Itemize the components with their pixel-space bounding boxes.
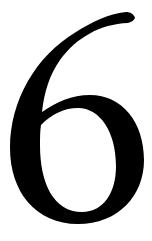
numeral-canvas: 6 [0, 0, 152, 241]
numeral-six-glyph [0, 0, 152, 241]
